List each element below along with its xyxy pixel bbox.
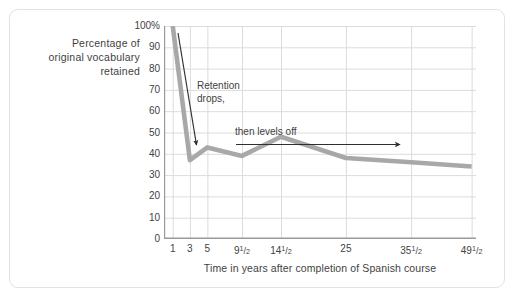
y-axis-tick-label: 20 (120, 191, 160, 201)
annotation-retention-drops-line-2: drops, (197, 93, 240, 106)
x-axis-tick-label: 1 (170, 243, 176, 255)
annotation-then-levels-off: then levels off (235, 126, 297, 139)
y-axis-tick-label: 70 (120, 85, 160, 95)
y-axis-tick-label: 50 (120, 128, 160, 138)
x-axis-title: Time in years after completion of Spanis… (164, 262, 476, 275)
y-axis-tick-label: 60 (120, 106, 160, 116)
annotation-retention-drops-line-1: Retention (197, 80, 240, 93)
x-axis-tick-label: 91/2 (234, 243, 250, 258)
y-axis-tick-label: 100% (120, 21, 160, 31)
y-axis-tick-label: 0 (120, 234, 160, 244)
y-axis-tick-label: 90 (120, 42, 160, 52)
x-axis-tick-label: 3 (187, 243, 193, 255)
plot-area (164, 26, 476, 239)
x-axis-tick-label: 351/2 (400, 243, 422, 258)
y-axis-tick-label: 80 (120, 64, 160, 74)
y-axis-tick-label: 10 (120, 213, 160, 223)
annotation-then-levels-off-line-1: then levels off (235, 126, 297, 139)
chart-canvas (164, 26, 476, 239)
x-axis-tick-label: 25 (340, 243, 351, 255)
y-axis-tick-label: 30 (120, 170, 160, 180)
x-axis-tick-label: 491/2 (461, 243, 483, 258)
x-axis-tick-labels: 13591/2141/225351/2491/2 (164, 243, 476, 259)
x-axis-tick-label: 141/2 (270, 243, 292, 258)
figure-root: Percentage of original vocabulary retain… (0, 0, 517, 307)
horizontal-gridlines (164, 27, 476, 219)
y-axis-tick-labels: 0102030405060708090100% (116, 26, 160, 239)
y-axis-tick-label: 40 (120, 149, 160, 159)
x-axis-tick-label: 5 (205, 243, 211, 255)
annotation-retention-drops: Retention drops, (197, 80, 240, 105)
